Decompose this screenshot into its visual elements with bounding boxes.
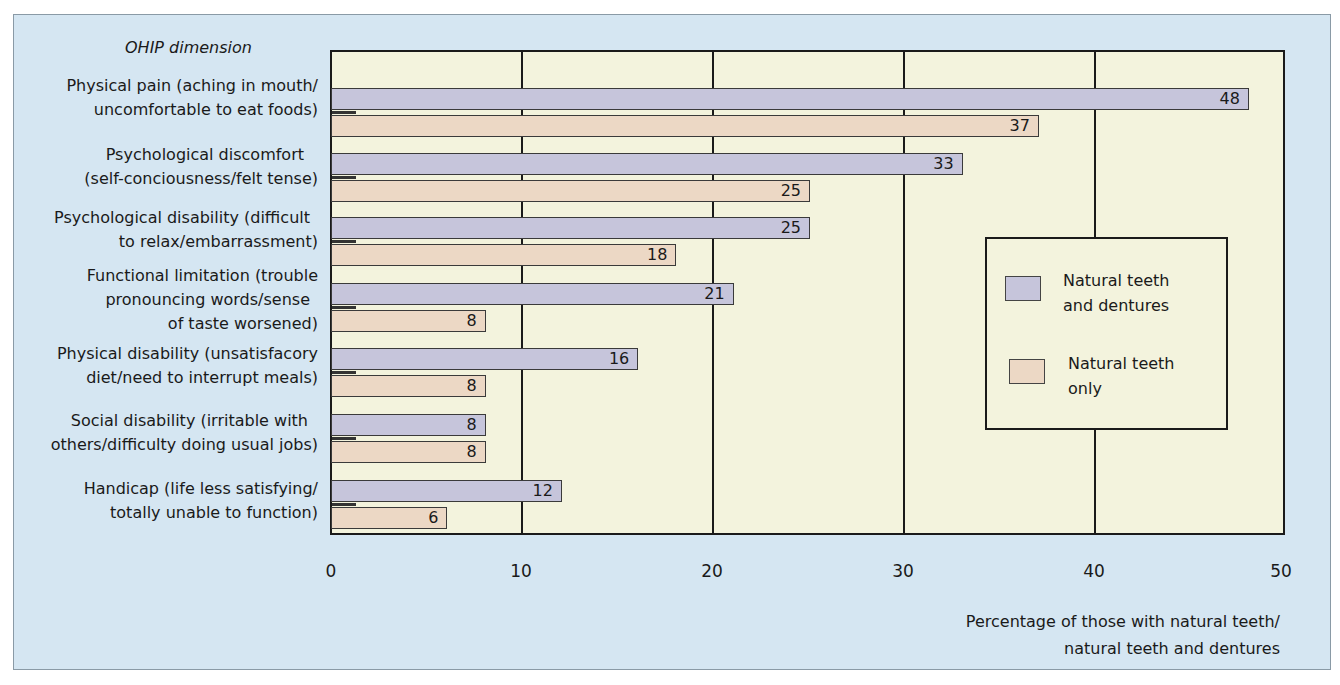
- legend-swatch-natural-teeth-and-dentures: [1005, 276, 1041, 301]
- bar-value-label: 8: [466, 311, 476, 330]
- x-tick-20: 20: [701, 561, 723, 581]
- bar-value-label: 33: [933, 154, 953, 173]
- category-tick-mark: [332, 176, 356, 179]
- bar-natural-teeth-only: 37: [331, 115, 1039, 137]
- y-axis-title: OHIP dimension: [125, 38, 252, 57]
- category-label-social-disability: Social disability (irritable with others…: [51, 409, 318, 457]
- bar-natural-teeth-and-dentures: 8: [331, 414, 486, 436]
- legend-label-natural-teeth-only: Natural teeth only: [1068, 351, 1174, 401]
- legend-line: only: [1068, 376, 1174, 401]
- category-label-physical-disability: Physical disability (unsatisfacory diet/…: [57, 342, 318, 390]
- category-tick-mark: [332, 306, 356, 309]
- bar-natural-teeth-only: 6: [331, 507, 447, 529]
- bar-natural-teeth-and-dentures: 25: [331, 217, 810, 239]
- x-tick-0: 0: [326, 561, 337, 581]
- legend-label-natural-teeth-and-dentures: Natural teeth and dentures: [1063, 268, 1169, 318]
- category-tick-mark: [332, 111, 356, 114]
- bar-natural-teeth-and-dentures: 16: [331, 348, 638, 370]
- label-line: others/difficulty doing usual jobs): [51, 433, 318, 457]
- category-tick-mark: [332, 371, 356, 374]
- label-line: Physical pain (aching in mouth/: [66, 74, 318, 98]
- label-line: pronouncing words/sense: [87, 288, 318, 312]
- category-label-handicap: Handicap (life less satisfying/ totally …: [84, 477, 318, 525]
- category-tick-mark: [332, 240, 356, 243]
- label-line: Functional limitation (trouble: [87, 264, 318, 288]
- bar-value-label: 25: [781, 181, 801, 200]
- category-label-psychological-discomfort: Psychological discomfort (self-conciousn…: [84, 143, 318, 191]
- category-label-psychological-disability: Psychological disability (difficult to r…: [54, 206, 318, 254]
- bar-value-label: 8: [466, 415, 476, 434]
- bar-natural-teeth-only: 8: [331, 375, 486, 397]
- label-line: of taste worsened): [87, 312, 318, 336]
- label-line: Psychological discomfort: [84, 143, 318, 167]
- category-tick-mark: [332, 503, 356, 506]
- category-label-physical-pain: Physical pain (aching in mouth/ uncomfor…: [66, 74, 318, 122]
- x-axis-title: Percentage of those with natural teeth/ …: [966, 608, 1280, 662]
- legend-line: Natural teeth: [1063, 268, 1169, 293]
- bar-value-label: 18: [647, 245, 667, 264]
- label-line: Social disability (irritable with: [51, 409, 318, 433]
- x-tick-50: 50: [1270, 561, 1292, 581]
- bar-value-label: 48: [1219, 89, 1239, 108]
- label-line: to relax/embarrassment): [54, 230, 318, 254]
- bar-value-label: 16: [609, 349, 629, 368]
- x-tick-10: 10: [510, 561, 532, 581]
- bar-value-label: 21: [704, 284, 724, 303]
- bar-value-label: 6: [428, 508, 438, 527]
- bar-value-label: 8: [466, 376, 476, 395]
- bar-value-label: 25: [781, 218, 801, 237]
- bar-value-label: 37: [1010, 116, 1030, 135]
- label-line: totally unable to function): [84, 501, 318, 525]
- label-line: (self-conciousness/felt tense): [84, 167, 318, 191]
- label-line: diet/need to interrupt meals): [57, 366, 318, 390]
- category-label-functional-limitation: Functional limitation (trouble pronounci…: [87, 264, 318, 336]
- legend-line: Natural teeth: [1068, 351, 1174, 376]
- x-axis-title-line: natural teeth and dentures: [966, 635, 1280, 662]
- bar-value-label: 8: [466, 442, 476, 461]
- legend: Natural teeth and dentures Natural teeth…: [985, 237, 1228, 430]
- bar-natural-teeth-only: 8: [331, 310, 486, 332]
- bar-natural-teeth-and-dentures: 12: [331, 480, 562, 502]
- bar-natural-teeth-and-dentures: 21: [331, 283, 734, 305]
- bar-value-label: 12: [533, 481, 553, 500]
- label-line: Psychological disability (difficult: [54, 206, 318, 230]
- x-tick-30: 30: [892, 561, 914, 581]
- bar-natural-teeth-only: 8: [331, 441, 486, 463]
- label-line: uncomfortable to eat foods): [66, 98, 318, 122]
- bar-natural-teeth-only: 25: [331, 180, 810, 202]
- x-tick-40: 40: [1083, 561, 1105, 581]
- legend-swatch-natural-teeth-only: [1009, 359, 1045, 384]
- label-line: Physical disability (unsatisfacory: [57, 342, 318, 366]
- bar-natural-teeth-and-dentures: 48: [331, 88, 1249, 110]
- label-line: Handicap (life less satisfying/: [84, 477, 318, 501]
- x-axis-title-line: Percentage of those with natural teeth/: [966, 608, 1280, 635]
- legend-line: and dentures: [1063, 293, 1169, 318]
- bar-natural-teeth-only: 18: [331, 244, 676, 266]
- bar-natural-teeth-and-dentures: 33: [331, 153, 963, 175]
- category-tick-mark: [332, 437, 356, 440]
